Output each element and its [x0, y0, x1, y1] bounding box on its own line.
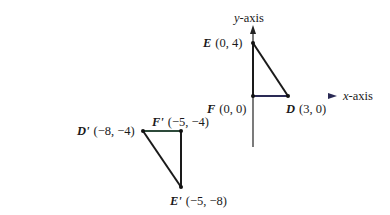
label-f: F(0, 0) [206, 102, 246, 116]
coordinate-plane: y-axis x-axis E(0, 4) F(0, 0) D(3, 0) D'… [0, 0, 390, 215]
triangle-def [251, 41, 290, 98]
point-d [286, 94, 290, 98]
label-e-prime: E'(−5, −8) [169, 194, 227, 208]
point-e [251, 41, 255, 45]
y-axis-label: y-axis [232, 11, 264, 25]
label-f-prime: F'(−5, −4) [151, 115, 209, 129]
label-e: E(0, 4) [202, 36, 242, 50]
triangle-d-prime-e-prime-f-prime [141, 129, 183, 189]
x-axis-arrow-icon [328, 93, 337, 99]
point-f [251, 94, 255, 98]
point-e-prime [179, 185, 183, 189]
label-d: D(3, 0) [285, 102, 326, 116]
x-axis-label: x-axis [342, 89, 373, 103]
label-d-prime: D'(−8, −4) [76, 124, 135, 138]
point-d-prime [141, 129, 145, 133]
y-axis-arrow-icon [250, 25, 256, 34]
point-f-prime [179, 129, 183, 133]
